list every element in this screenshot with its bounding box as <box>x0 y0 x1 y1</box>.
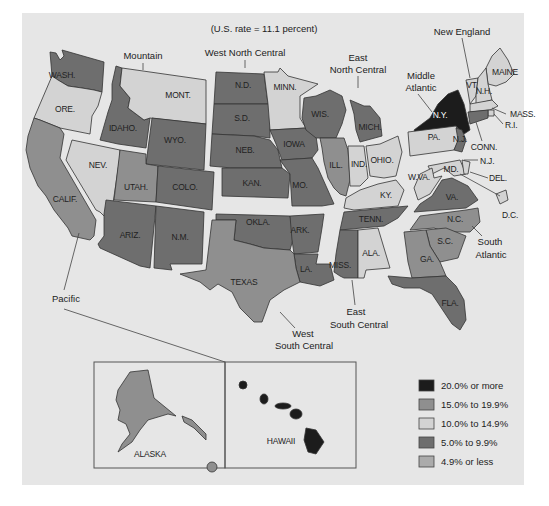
legend-swatch-c4less <box>419 456 434 467</box>
state-label-conn: CONN. <box>471 142 497 152</box>
alaska-island <box>207 462 217 472</box>
state-label-ga: GA. <box>420 254 434 264</box>
state-label-nd: N.D. <box>235 80 251 90</box>
state-label-utah: UTAH. <box>124 182 148 192</box>
state-label-tenn: TENN. <box>359 214 384 224</box>
state-label-wva: W.VA. <box>408 172 430 182</box>
state-label-texas: TEXAS <box>231 277 258 287</box>
alaska-panhandle <box>182 416 206 440</box>
region-label-east-south-central-2: South Central <box>330 319 388 330</box>
region-label-middle-atlantic-2: Atlantic <box>405 82 436 93</box>
hawaii-island-oahu <box>260 394 268 404</box>
region-label-pacific: Pacific <box>52 293 80 304</box>
legend-label-c10to14: 10.0% to 14.9% <box>441 418 509 429</box>
state-label-fla: FLA. <box>441 298 458 308</box>
state-label-ark: ARK. <box>290 225 309 235</box>
state-label-md: MD. <box>444 164 459 174</box>
state-label-nj: N.J. <box>480 156 494 166</box>
region-label-south-atlantic-2: Atlantic <box>475 249 506 260</box>
hawaii-island-kauai <box>239 381 247 389</box>
state-label-idaho: IDAHO. <box>109 123 137 133</box>
region-label-west-south-central-1: West <box>292 328 314 339</box>
state-label-sd: S.D. <box>234 113 250 123</box>
leader-line-new-england <box>462 38 470 78</box>
leader-line-south-atlantic <box>472 226 482 236</box>
state-label-nev: NEV. <box>89 160 107 170</box>
leader-line-pacific-calif <box>64 233 79 290</box>
states-layer <box>26 48 514 330</box>
state-label-ill: ILL. <box>329 160 342 170</box>
legend-label-c20plus: 20.0% or more <box>441 380 503 391</box>
region-label-east-north-central-2: North Central <box>330 64 387 75</box>
hawaii-label: HAWAII <box>267 436 295 446</box>
state-label-del: DEL. <box>489 173 507 183</box>
state-label-nc: N.C. <box>447 214 463 224</box>
state-label-maine: MAINE <box>492 67 518 77</box>
leader-conn <box>476 122 482 141</box>
state-label-neb: NEB. <box>235 145 254 155</box>
region-label-mountain: Mountain <box>123 50 162 61</box>
state-label-ore: ORE. <box>55 104 75 114</box>
state-label-la: LA. <box>300 264 312 274</box>
state-label-nj: N.J. <box>453 134 467 144</box>
legend-swatch-c5to9 <box>419 437 434 448</box>
state-miss[interactable] <box>334 230 358 278</box>
state-label-mont: MONT. <box>165 90 190 100</box>
state-label-okla: OKLA. <box>246 217 270 227</box>
hawaii-island-maui <box>290 409 302 419</box>
legend-swatch-c20plus <box>419 380 434 391</box>
state-hawaii[interactable] <box>304 428 324 454</box>
leader-del <box>470 172 488 178</box>
region-label-east-north-central-1: East <box>348 52 367 63</box>
leader-line-wsc <box>280 312 295 328</box>
state-label-mass: MASS. <box>510 109 535 119</box>
alaska-shape: ALASKA <box>116 370 217 472</box>
state-label-colo: COLO. <box>172 182 197 192</box>
state-dc[interactable] <box>496 190 508 204</box>
state-label-mo: MO. <box>292 180 307 190</box>
state-label-wash: WASH. <box>49 70 76 80</box>
state-label-ky: KY. <box>380 190 392 200</box>
alaska-label: ALASKA <box>134 449 166 459</box>
legend-label-c15to19: 15.0% to 19.9% <box>441 399 509 410</box>
state-label-iowa: IOWA <box>283 139 305 149</box>
leader-line-esc <box>352 280 355 305</box>
state-label-ohio: OHIO. <box>370 155 393 165</box>
legend-swatch-c15to19 <box>419 399 434 410</box>
state-label-ny: N.Y. <box>433 110 448 120</box>
leader-line-pacific-inset <box>64 309 225 362</box>
us-rate-title: (U.S. rate = 11.1 percent) <box>211 23 318 34</box>
region-label-west-north-central: West North Central <box>205 47 286 58</box>
state-conn[interactable] <box>468 110 488 124</box>
leader-ri <box>494 114 503 124</box>
state-label-nm: N.M. <box>171 232 188 242</box>
state-label-nh: N.H. <box>476 86 492 96</box>
region-label-new-england: New England <box>434 26 491 37</box>
region-label-west-south-central-2: South Central <box>275 340 333 351</box>
state-label-calif: CALIF. <box>53 194 77 204</box>
state-label-wyo: WYO. <box>164 135 186 145</box>
region-label-south-atlantic-1: South <box>478 236 503 247</box>
state-label-va: VA. <box>446 192 458 202</box>
state-label-kan: KAN. <box>242 178 261 188</box>
state-label-wis: WIS. <box>311 109 329 119</box>
us-choropleth-map: WASH.ORE.CALIF.NEV.IDAHO.MONT.WYO.UTAH.C… <box>0 0 549 506</box>
state-label-minn: MINN. <box>273 82 296 92</box>
state-label-dc: D.C. <box>502 210 518 220</box>
state-alaska[interactable] <box>116 370 176 452</box>
state-label-miss: MISS. <box>329 260 351 270</box>
state-label-mich: MICH. <box>358 122 381 132</box>
hawaii-island-molokai <box>275 403 291 409</box>
state-label-ala: ALA. <box>362 248 380 258</box>
legend-swatch-c10to14 <box>419 418 434 429</box>
state-label-ri: R.I. <box>505 120 517 130</box>
region-label-east-south-central-1: East <box>346 306 365 317</box>
legend: 20.0% or more15.0% to 19.9%10.0% to 14.9… <box>419 380 509 467</box>
leader-line-middle-atlantic <box>418 94 432 112</box>
state-label-pa: PA. <box>428 132 440 142</box>
state-mich[interactable] <box>350 100 382 142</box>
state-label-ariz: ARIZ. <box>120 230 141 240</box>
state-label-ind: IND. <box>351 159 367 169</box>
state-label-sc: S.C. <box>437 236 453 246</box>
state-ri[interactable] <box>488 110 494 116</box>
